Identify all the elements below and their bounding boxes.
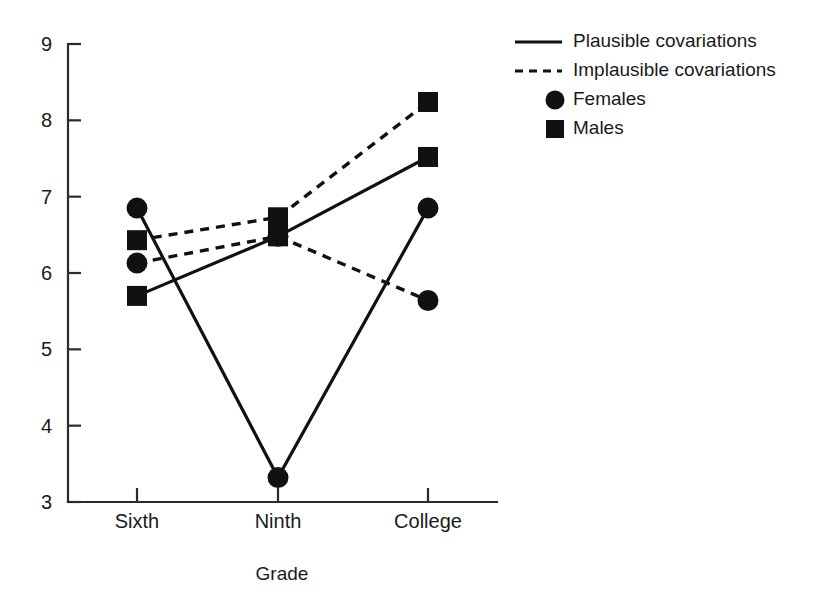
legend-label-0: Plausible covariations — [573, 30, 757, 51]
data-point-0-0 — [127, 198, 148, 219]
x-axis-title: Grade — [256, 563, 309, 584]
data-point-3-0 — [127, 230, 147, 250]
y-tick-label-3: 3 — [41, 491, 52, 513]
data-point-2-1 — [268, 226, 289, 247]
series-layer — [127, 92, 439, 488]
data-point-3-1 — [268, 207, 288, 227]
x-axis-ticks: SixthNinthCollege — [115, 488, 462, 532]
legend-label-2: Females — [573, 88, 646, 109]
legend-item-2: Females — [546, 88, 646, 109]
data-point-2-2 — [418, 290, 439, 311]
legend-item-3: Males — [546, 117, 624, 138]
y-axis-ticks: 3456789 — [41, 33, 81, 513]
data-point-0-1 — [268, 467, 289, 488]
figure-container: 3456789 SixthNinthCollege Grade Plausibl… — [0, 0, 833, 612]
legend-label-3: Males — [573, 117, 624, 138]
y-tick-label-7: 7 — [41, 186, 52, 208]
x-tick-label-2: College — [394, 510, 462, 532]
legend-item-0: Plausible covariations — [515, 30, 757, 51]
y-tick-label-8: 8 — [41, 109, 52, 131]
y-tick-label-6: 6 — [41, 262, 52, 284]
legend-square-marker-icon — [546, 120, 564, 138]
data-point-1-2 — [418, 147, 438, 167]
series-markers-3 — [127, 92, 438, 250]
y-tick-label-4: 4 — [41, 415, 52, 437]
x-tick-label-1: Ninth — [255, 510, 302, 532]
series-0 — [137, 208, 428, 477]
y-axis: 3456789 — [41, 33, 81, 513]
series-markers-2 — [127, 226, 439, 311]
x-axis: SixthNinthCollege Grade — [68, 488, 497, 584]
legend-circle-marker-icon — [546, 91, 565, 110]
y-tick-label-9: 9 — [41, 33, 52, 55]
series-line-0 — [137, 208, 428, 477]
data-point-0-2 — [418, 198, 439, 219]
legend: Plausible covariationsImplausible covari… — [515, 30, 776, 138]
legend-item-1: Implausible covariations — [515, 59, 776, 80]
data-point-1-0 — [127, 286, 147, 306]
line-chart: 3456789 SixthNinthCollege Grade Plausibl… — [0, 0, 833, 612]
x-tick-label-0: Sixth — [115, 510, 159, 532]
data-point-2-0 — [127, 253, 148, 274]
data-point-3-2 — [418, 92, 438, 112]
legend-label-1: Implausible covariations — [573, 59, 776, 80]
y-tick-label-5: 5 — [41, 338, 52, 360]
